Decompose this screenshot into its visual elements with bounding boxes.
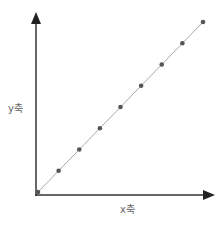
data-point [98,126,103,131]
data-point [118,105,123,110]
data-point [159,62,164,67]
data-series [36,20,206,195]
data-point [201,20,206,25]
data-point [77,147,82,152]
data-point [56,168,61,173]
y-axis-label: y축 [8,100,23,115]
data-point [180,41,185,46]
y-axis-arrow-icon [31,12,41,24]
x-axis-label: x축 [120,201,135,216]
data-point [139,83,144,88]
line-chart [0,0,222,228]
data-point [36,190,41,195]
x-axis-arrow-icon [203,190,215,200]
